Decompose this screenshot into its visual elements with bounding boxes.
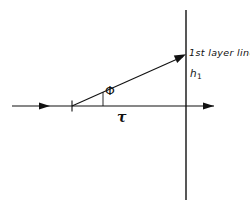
figure-container: 1st layer line h1 Φ τ (0, 0, 250, 207)
diffracted-ray (72, 57, 183, 107)
tau-label: τ (117, 110, 126, 124)
beam-direction-arrowhead (39, 102, 50, 109)
phi-angle-label: Φ (105, 85, 115, 98)
h-subscript: 1 (197, 72, 202, 81)
layer-line-label: 1st layer line (189, 48, 250, 58)
diagram-canvas (0, 0, 250, 207)
diffracted-ray-arrowhead (174, 54, 186, 63)
h1-label: h1 (190, 68, 202, 81)
horizontal-axis-arrowhead (203, 102, 214, 109)
h-symbol: h (190, 67, 197, 79)
